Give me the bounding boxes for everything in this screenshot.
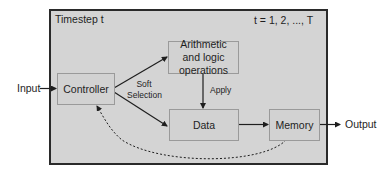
soft-selection-label: Soft Selection xyxy=(127,79,161,101)
memory-node: Memory xyxy=(269,109,320,141)
output-label: Output xyxy=(345,118,377,130)
data-label: Data xyxy=(193,119,215,132)
arithmetic-logic-node: Arithmetic and logic operations xyxy=(168,41,239,74)
soft-selection-line1: Soft xyxy=(127,79,161,90)
data-node: Data xyxy=(169,109,239,141)
soft-selection-line2: Selection xyxy=(127,90,161,101)
controller-node: Controller xyxy=(57,73,115,105)
input-label: Input xyxy=(17,82,40,94)
apply-label: Apply xyxy=(210,85,231,96)
arithmetic-logic-label: Arithmetic and logic operations xyxy=(172,38,235,77)
controller-label: Controller xyxy=(63,83,109,96)
memory-label: Memory xyxy=(276,119,314,132)
